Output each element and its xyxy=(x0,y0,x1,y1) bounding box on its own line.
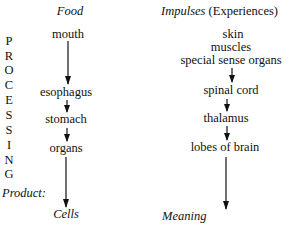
step-stomach: stomach xyxy=(45,113,87,126)
arrow-senses-to-spinal-cord xyxy=(229,68,235,83)
arrow-lobes-to-meaning xyxy=(223,157,229,210)
impulses-header: Impulses (Experiences) xyxy=(161,5,278,18)
arrow-stomach-to-organs xyxy=(64,128,70,142)
arrow-mouth-to-esophagus xyxy=(65,41,71,85)
side-letter: G xyxy=(4,168,14,181)
arrow-organs-to-cells xyxy=(63,157,69,208)
step-organs: organs xyxy=(49,142,82,155)
side-letter: I xyxy=(4,139,14,152)
product-label: Product: xyxy=(2,187,46,200)
food-header: Food xyxy=(57,5,83,18)
step-mouth: mouth xyxy=(52,28,84,41)
side-letter: R xyxy=(4,50,14,63)
side-letter: E xyxy=(4,94,14,107)
side-letter: S xyxy=(4,109,14,122)
impulses-header-italic: Impulses xyxy=(161,4,205,18)
side-letter: P xyxy=(4,35,14,48)
step-esophagus: esophagus xyxy=(40,86,92,99)
impulses-header-paren: (Experiences) xyxy=(209,4,278,18)
side-letter: N xyxy=(4,154,14,167)
side-letter: S xyxy=(4,124,14,137)
arrow-thalamus-to-lobes xyxy=(224,126,230,141)
source-special-sense-organs: special sense organs xyxy=(180,54,281,67)
side-letter: O xyxy=(4,64,14,77)
product-cells: Cells xyxy=(53,208,79,221)
product-meaning: Meaning xyxy=(162,210,206,223)
step-thalamus: thalamus xyxy=(203,112,248,125)
step-lobes-of-brain: lobes of brain xyxy=(191,141,260,154)
step-spinal-cord: spinal cord xyxy=(203,84,258,97)
side-letter: C xyxy=(4,79,14,92)
